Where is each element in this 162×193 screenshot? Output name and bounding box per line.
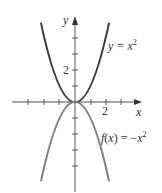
upper-curve-label: y = x2 bbox=[107, 38, 137, 53]
x-axis-label: x bbox=[135, 105, 142, 119]
y-tick-label-2: 2 bbox=[63, 63, 69, 77]
y-axis-arrow-icon bbox=[72, 16, 78, 25]
y-axis-label: y bbox=[62, 13, 69, 27]
parabola-chart: y x 2 2 y = x2 f(x) = −x2 bbox=[0, 0, 162, 193]
x-tick-label-2: 2 bbox=[102, 104, 108, 118]
lower-curve-label: f(x) = −x2 bbox=[101, 130, 147, 145]
